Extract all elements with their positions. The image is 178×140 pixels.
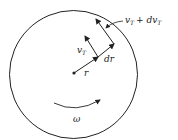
dr-label: dr [104,54,115,64]
rotating-disk-diagram: r dr vT vT+ dvT ω [0,0,178,140]
vt-plus-dvt-label: vT+ dvT [125,15,162,26]
omega-label: ω [73,114,81,124]
vt-label: vT [77,45,87,56]
label-leader [106,21,123,28]
radius-label: r [84,68,89,78]
vt-vector [85,36,98,57]
omega-arrow [54,100,100,108]
